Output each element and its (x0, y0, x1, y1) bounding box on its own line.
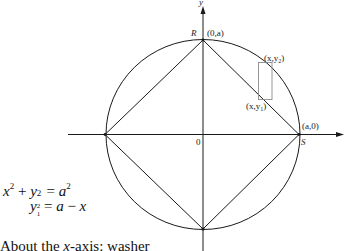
point-R-name: R (191, 28, 197, 38)
origin-label: 0 (196, 137, 201, 147)
washer-slice-rectangle (259, 63, 273, 100)
point-R-coords: (0,a) (207, 28, 224, 38)
equation-circle: x2 + y22 = a2 (3, 178, 71, 200)
caption: About the x-axis: washer (0, 238, 150, 251)
vertex-left-dot (104, 133, 107, 136)
y-axis-label: y (199, 0, 203, 7)
vertex-R-dot (202, 39, 205, 42)
slice-top-label: (x,y2) (264, 53, 284, 66)
vertex-S-dot (298, 133, 301, 136)
y-axis-arrow-icon (201, 6, 206, 14)
equation-line: y1 = a − x (30, 198, 86, 223)
slice-bottom-label: (x,y1) (246, 101, 266, 114)
x-axis-arrow-icon (336, 132, 344, 137)
vertex-bottom-dot (201, 227, 204, 230)
point-S-name: S (301, 137, 306, 147)
point-S-coords: (a,0) (302, 121, 319, 131)
